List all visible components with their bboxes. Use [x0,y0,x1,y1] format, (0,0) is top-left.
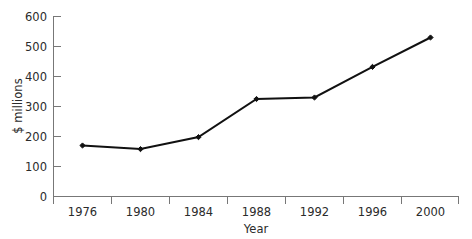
x-tick-label-1992: 1992 [300,205,329,219]
y-axis-title: $ millions [11,78,25,133]
y-tick-label-200: 200 [25,130,47,144]
x-tick-label-1996: 1996 [358,205,387,219]
x-tick-label-1988: 1988 [242,205,271,219]
line-chart: 600 500 400 300 200 100 0 $ millions 197… [0,0,472,239]
chart-canvas: 600 500 400 300 200 100 0 $ millions 197… [0,0,472,239]
x-tick-label-1984: 1984 [184,205,213,219]
y-tick-label-300: 300 [25,100,47,114]
x-tick-label-1976: 1976 [68,205,97,219]
x-tick-label-2000: 2000 [416,205,445,219]
y-tick-label-400: 400 [25,70,47,84]
y-tick-label-100: 100 [25,160,47,174]
x-axis-title: Year [243,222,269,236]
y-tick-label-0: 0 [40,190,47,204]
y-tick-label-600: 600 [25,10,47,24]
y-tick-label-500: 500 [25,40,47,54]
x-tick-label-1980: 1980 [126,205,155,219]
